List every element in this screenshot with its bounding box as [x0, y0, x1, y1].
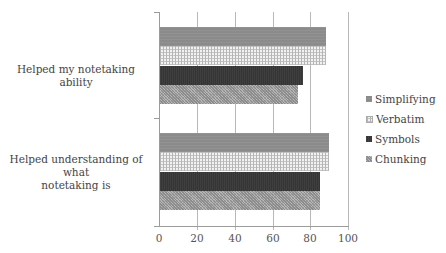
y-axis-tick [154, 12, 159, 13]
x-tick-label: 100 [333, 232, 363, 244]
legend-label: Symbols [375, 133, 420, 145]
category-label-2-line2: notetaking is [0, 179, 152, 192]
legend-item-simplifying: Simplifying [366, 89, 436, 109]
x-tick-label: 80 [295, 232, 325, 244]
category-label-1: Helped my notetaking ability [0, 63, 152, 89]
legend-label: Chunking [375, 153, 427, 165]
bar-g2-verbatim [160, 152, 329, 171]
category-label-2: Helped understanding of what notetaking … [0, 153, 152, 192]
legend-swatch-verbatim-icon [366, 116, 373, 123]
bar-g2-chunking [160, 191, 320, 210]
x-tick-label: 60 [258, 232, 288, 244]
legend-item-chunking: Chunking [366, 149, 436, 169]
legend: Simplifying Verbatim Symbols Chunking [366, 89, 436, 169]
legend-item-verbatim: Verbatim [366, 109, 436, 129]
legend-label: Simplifying [375, 93, 436, 105]
legend-swatch-symbols-icon [366, 136, 372, 142]
bar-g1-symbols [160, 66, 303, 85]
x-tick-label: 40 [220, 232, 250, 244]
legend-swatch-simplifying-icon [366, 96, 372, 102]
bar-g2-symbols [160, 172, 320, 191]
legend-swatch-chunking-icon [366, 156, 372, 162]
x-axis [159, 226, 349, 227]
x-tick-label: 0 [144, 232, 174, 244]
bar-g1-simplifying [160, 27, 326, 46]
bar-g2-simplifying [160, 133, 329, 152]
legend-item-symbols: Symbols [366, 129, 436, 149]
x-tick-label: 20 [182, 232, 212, 244]
category-label-2-line1: Helped understanding of what [0, 153, 152, 179]
category-label-1-text: Helped my notetaking ability [17, 63, 135, 88]
y-axis-tick [154, 118, 159, 119]
bar-g1-verbatim [160, 46, 326, 65]
legend-label: Verbatim [376, 113, 424, 125]
chart-title-cropped [150, 0, 446, 3]
bar-g1-chunking [160, 85, 298, 104]
gridline-100 [348, 12, 349, 230]
